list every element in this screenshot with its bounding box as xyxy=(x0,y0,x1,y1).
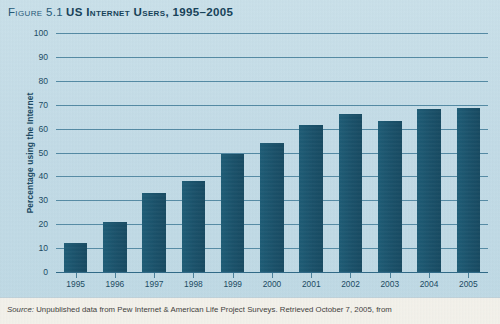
footer-strip: Source: Unpublished data from Pew Intern… xyxy=(0,297,500,324)
x-tick-slot xyxy=(409,272,448,279)
x-axis-label-2002: 2002 xyxy=(331,279,370,293)
x-axis-label-1997: 1997 xyxy=(135,279,174,293)
bar-1996 xyxy=(103,222,127,272)
x-tick-slot xyxy=(449,272,488,279)
y-axis-tick-label: 30 xyxy=(38,195,48,205)
figure-container: Figure 5.1US Internet Users, 1995–2005 P… xyxy=(0,0,500,324)
x-axis-label-2005: 2005 xyxy=(449,279,488,293)
figure-title-text: US Internet Users, 1995–2005 xyxy=(66,6,233,18)
x-tick-mark xyxy=(115,272,116,278)
bar-slot xyxy=(95,33,134,272)
bar-slot xyxy=(292,33,331,272)
x-axis-label-1995: 1995 xyxy=(56,279,95,293)
bar-2000 xyxy=(260,143,284,272)
y-axis-title: Percentage using the Internet xyxy=(25,58,35,248)
bar-slot xyxy=(213,33,252,272)
x-tick-slot xyxy=(135,272,174,279)
x-tick-mark xyxy=(350,272,351,278)
bar-2005 xyxy=(457,108,481,272)
x-tick-mark xyxy=(311,272,312,278)
x-tick-mark xyxy=(429,272,430,278)
bar-slot xyxy=(252,33,291,272)
bar-slot xyxy=(449,33,488,272)
y-axis-tick-label: 50 xyxy=(38,148,48,158)
x-axis-label-2003: 2003 xyxy=(370,279,409,293)
x-tick-slot xyxy=(292,272,331,279)
bar-series xyxy=(56,33,488,272)
x-tick-slot xyxy=(331,272,370,279)
bar-1997 xyxy=(142,193,166,272)
x-tick-mark xyxy=(193,272,194,278)
bar-1999 xyxy=(221,154,245,272)
x-tick-mark xyxy=(468,272,469,278)
source-note: Source: Unpublished data from Pew Intern… xyxy=(7,305,495,314)
bar-2001 xyxy=(299,125,323,272)
bar-2002 xyxy=(339,114,363,272)
y-axis-tick-label: 90 xyxy=(38,52,48,62)
figure-number-label: Figure 5.1 xyxy=(8,6,63,18)
x-axis-tick-marks xyxy=(56,272,488,279)
x-tick-slot xyxy=(252,272,291,279)
x-tick-slot xyxy=(174,272,213,279)
x-axis-tick-labels: 1995199619971998199920002001200220032004… xyxy=(56,279,488,293)
y-axis-tick-label: 60 xyxy=(38,124,48,134)
x-axis-label-1999: 1999 xyxy=(213,279,252,293)
bar-slot xyxy=(174,33,213,272)
bar-2003 xyxy=(378,121,402,272)
plot-area: 1009080706050403020100 xyxy=(56,33,488,272)
x-tick-mark xyxy=(76,272,77,278)
y-axis-tick-label: 10 xyxy=(38,243,48,253)
y-axis-tick-label: 70 xyxy=(38,100,48,110)
bar-1998 xyxy=(182,181,206,272)
source-note-text: Unpublished data from Pew Internet & Ame… xyxy=(36,305,392,314)
x-tick-mark xyxy=(272,272,273,278)
x-tick-slot xyxy=(95,272,134,279)
x-tick-mark xyxy=(233,272,234,278)
x-tick-mark xyxy=(154,272,155,278)
x-tick-slot xyxy=(370,272,409,279)
bar-slot xyxy=(331,33,370,272)
y-axis-tick-label: 40 xyxy=(38,171,48,181)
x-axis-label-1998: 1998 xyxy=(174,279,213,293)
source-note-prefix: Source: xyxy=(7,305,34,314)
bar-2004 xyxy=(417,109,441,272)
y-axis-tick-label: 0 xyxy=(43,267,48,277)
x-axis-label-2000: 2000 xyxy=(252,279,291,293)
x-tick-slot xyxy=(213,272,252,279)
bar-slot xyxy=(409,33,448,272)
figure-title: Figure 5.1US Internet Users, 1995–2005 xyxy=(8,2,488,20)
bar-slot xyxy=(135,33,174,272)
x-axis-label-2001: 2001 xyxy=(292,279,331,293)
y-axis-tick-label: 100 xyxy=(34,28,48,38)
y-axis-tick-label: 80 xyxy=(38,76,48,86)
x-tick-slot xyxy=(56,272,95,279)
x-axis-label-2004: 2004 xyxy=(409,279,448,293)
x-axis-label-1996: 1996 xyxy=(95,279,134,293)
bar-1995 xyxy=(64,243,88,272)
y-axis-tick-label: 20 xyxy=(38,219,48,229)
x-tick-mark xyxy=(390,272,391,278)
bar-slot xyxy=(56,33,95,272)
bar-slot xyxy=(370,33,409,272)
